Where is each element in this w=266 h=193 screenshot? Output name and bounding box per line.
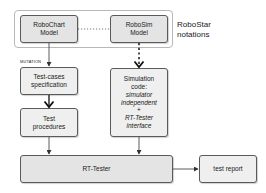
robosim-line1: RoboSim	[126, 21, 153, 29]
simcode-line2: code:	[131, 83, 147, 91]
simcode-line4: independent	[121, 99, 157, 107]
testcases-line2: specification	[31, 81, 67, 89]
test-procedures-node: Test procedures	[20, 108, 78, 137]
robochart-model-node: RoboChart Model	[20, 15, 78, 43]
mutation-label: MUTATION	[20, 59, 41, 64]
test-cases-specification-node: Test-cases specification	[20, 67, 78, 95]
robochart-line1: RoboChart	[33, 21, 64, 29]
rt-tester-node: RT-Tester	[20, 155, 173, 183]
simcode-line6: RT-Tester	[125, 114, 153, 122]
robosim-chevron-icon	[135, 62, 144, 68]
robostar-label-line2: notations	[177, 30, 211, 40]
simulation-code-node: Simulation code: simulator independent +…	[110, 68, 168, 137]
test-report-label: test report	[213, 165, 242, 173]
robostar-label-line1: RoboStar	[177, 20, 211, 30]
simcode-line1: Simulation	[124, 75, 154, 83]
testcases-line1: Test-cases	[33, 73, 64, 81]
robostar-notations-label: RoboStar notations	[177, 20, 211, 40]
simcode-plus: +	[137, 106, 141, 114]
robosim-line2: Model	[130, 29, 148, 37]
procedures-line2: procedures	[33, 123, 66, 131]
simcode-line3: simulator	[126, 91, 152, 99]
procedures-line1: Test	[43, 115, 55, 123]
robosim-model-node: RoboSim Model	[110, 15, 168, 43]
rt-tester-label: RT-Tester	[82, 165, 110, 173]
procedures-chevron-icon	[45, 102, 54, 108]
test-report-node: test report	[199, 155, 257, 183]
simcode-line7: interface	[127, 122, 152, 130]
robochart-line2: Model	[40, 29, 58, 37]
